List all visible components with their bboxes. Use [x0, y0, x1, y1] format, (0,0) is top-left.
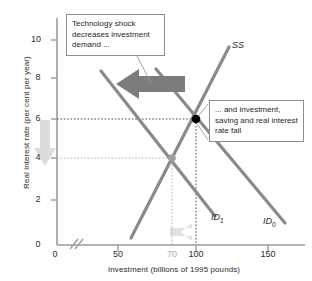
x-tick-150: 150: [255, 249, 281, 259]
investment-fall-arrow: [170, 223, 192, 241]
y-axis-ticks: [51, 40, 57, 200]
curve-ss: [131, 47, 229, 238]
investment-demand-chart: 10 8 6 4 2 0 0 50 70 100 150 Real intere…: [0, 0, 312, 281]
curve-id0: [156, 69, 285, 223]
callout-technology-shock: Technology shock decreases investment de…: [66, 14, 165, 56]
curve-label-id0-text: ID: [263, 216, 272, 226]
curve-label-id1: ID1: [211, 212, 224, 224]
x-tick-0: 0: [47, 249, 63, 259]
curve-label-id0: ID0: [263, 216, 276, 228]
axis-break-icon: [70, 239, 83, 249]
curve-label-ss: SS: [232, 40, 244, 50]
x-tick-50: 50: [108, 249, 128, 259]
x-tick-100: 100: [183, 249, 209, 259]
curve-label-id0-sub: 0: [272, 221, 276, 228]
x-tick-70: 70: [162, 249, 182, 259]
y-tick-4: 4: [30, 152, 46, 162]
x-axis-title: Investment (billions of 1995 pounds): [108, 265, 240, 274]
equilibrium-point-new: [168, 154, 176, 162]
demand-shift-arrow: [116, 69, 185, 99]
curve-id1: [101, 71, 215, 216]
curve-label-id1-sub: 1: [220, 217, 224, 224]
y-tick-0: 0: [30, 239, 46, 249]
y-tick-8: 8: [30, 72, 46, 82]
equilibrium-point-original: [192, 115, 201, 124]
callout-result: ... and investment, saving and real inte…: [209, 100, 304, 142]
y-tick-6: 6: [30, 113, 46, 123]
curve-label-id1-text: ID: [211, 212, 220, 222]
y-axis-title: Real interest rate (per cent per year): [22, 43, 31, 203]
guide-lines: [57, 119, 196, 245]
y-tick-2: 2: [30, 194, 46, 204]
